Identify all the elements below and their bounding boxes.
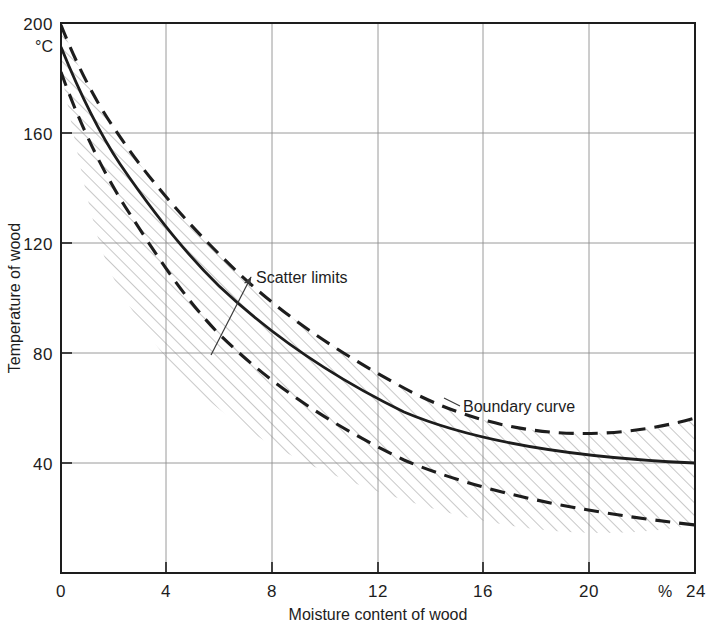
xaxis-unit-label: %	[658, 583, 672, 600]
annotation-boundary-curve: Boundary curve	[463, 398, 575, 415]
ytick-label-120: 120	[23, 235, 53, 254]
ytick-label-80: 80	[33, 345, 53, 364]
yaxis-unit-label: °C	[35, 38, 53, 55]
chart-container: Scatter limits Boundary curve 200 °C 160…	[0, 0, 712, 628]
xtick-label-16: 16	[473, 582, 493, 601]
xtick-label-24: 24	[686, 582, 706, 601]
ytick-label-40: 40	[33, 455, 53, 474]
ytick-label-200: 200	[23, 15, 53, 34]
chart-svg: Scatter limits Boundary curve 200 °C 160…	[0, 0, 712, 628]
ytick-label-160: 160	[23, 125, 53, 144]
yaxis-title: Temperature of wood	[6, 223, 23, 373]
annotation-scatter-limits: Scatter limits	[256, 269, 348, 286]
xaxis-title: Moisture content of wood	[289, 606, 468, 623]
xtick-label-12: 12	[368, 582, 388, 601]
xtick-label-0: 0	[56, 582, 66, 601]
xtick-label-20: 20	[579, 582, 599, 601]
xtick-label-4: 4	[161, 582, 171, 601]
xtick-label-8: 8	[267, 582, 277, 601]
